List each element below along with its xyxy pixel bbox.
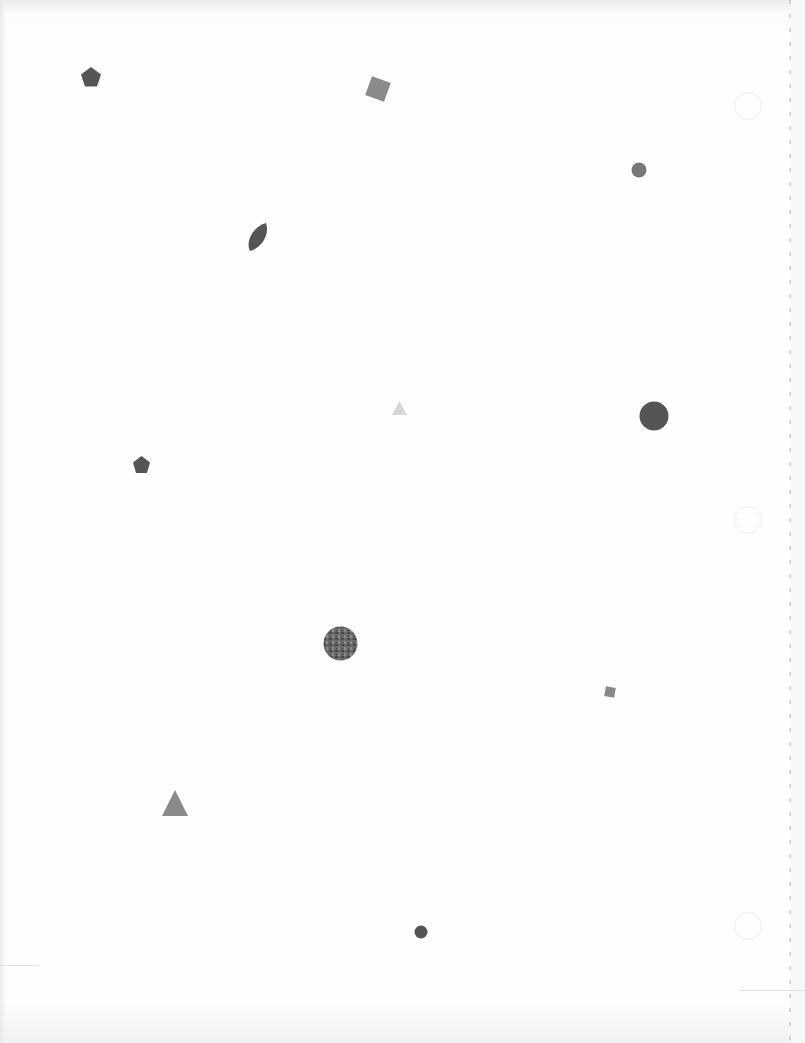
punch-hole-middle bbox=[734, 506, 762, 534]
punch-hole-top bbox=[734, 92, 762, 120]
punch-hole-bottom bbox=[734, 912, 762, 940]
page-left-edge-shadow bbox=[0, 0, 6, 1043]
textured-circle-shape-icon bbox=[323, 626, 358, 661]
small-circle-shape-icon bbox=[414, 925, 428, 939]
perforation-line bbox=[789, 0, 791, 1043]
triangle-faint-shape-icon bbox=[392, 401, 407, 415]
circle-shape-icon bbox=[631, 162, 647, 178]
pentagon-small-shape-icon bbox=[132, 455, 151, 474]
scanned-page bbox=[0, 0, 805, 1043]
large-circle-shape-icon bbox=[639, 401, 669, 431]
small-square-shape-icon bbox=[604, 686, 616, 698]
pentagon-shape-icon bbox=[80, 66, 102, 88]
triangle-shape-icon bbox=[161, 789, 189, 817]
page-right-strip bbox=[791, 0, 805, 1043]
edge-mark-right bbox=[740, 990, 805, 991]
leaf-shape-icon bbox=[246, 222, 270, 252]
square-shape-icon bbox=[365, 76, 391, 102]
edge-mark-left bbox=[0, 965, 38, 966]
